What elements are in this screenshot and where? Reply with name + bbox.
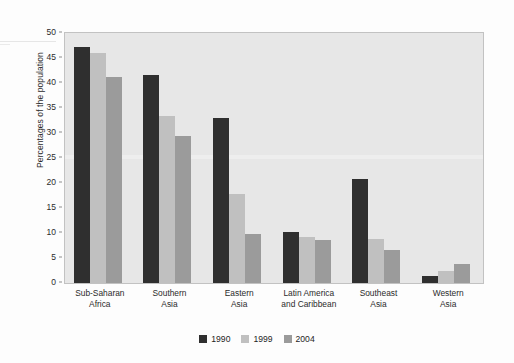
bar-1999-4 bbox=[299, 237, 315, 284]
y-tick-label: 30 bbox=[0, 127, 56, 137]
legend-swatch-icon bbox=[199, 335, 207, 343]
y-tick-label: 15 bbox=[0, 202, 56, 212]
bar-2004-5 bbox=[384, 250, 400, 284]
bar-group bbox=[344, 33, 414, 283]
bar-group bbox=[413, 33, 483, 283]
bar-1999-1 bbox=[90, 53, 106, 283]
bar-1990-1 bbox=[74, 47, 90, 283]
bar-group bbox=[204, 33, 274, 283]
y-tick-mark bbox=[59, 182, 62, 183]
y-tick-label: 20 bbox=[0, 177, 56, 187]
y-tick-mark bbox=[59, 257, 62, 258]
x-axis-label: Latin Americaand Caribbean bbox=[274, 288, 344, 310]
legend-item-1990: 1990 bbox=[199, 334, 230, 344]
x-axis-label-line: Southern bbox=[135, 288, 205, 299]
x-axis-label-line: Asia bbox=[204, 299, 274, 310]
y-tick-label: 40 bbox=[0, 77, 56, 87]
x-axis-label: SoutheastAsia bbox=[344, 288, 414, 310]
x-axis-label: SouthernAsia bbox=[135, 288, 205, 310]
x-axis-label-line: Latin America bbox=[274, 288, 344, 299]
bar-group bbox=[274, 33, 344, 283]
x-axis-label-line: Western bbox=[413, 288, 483, 299]
x-axis-label-line: Asia bbox=[135, 299, 205, 310]
legend-label: 1990 bbox=[211, 334, 230, 344]
bar-group bbox=[65, 33, 135, 283]
y-tick-mark bbox=[59, 132, 62, 133]
bar-1990-6 bbox=[422, 276, 438, 284]
legend-label: 1999 bbox=[253, 334, 272, 344]
bar-1990-5 bbox=[352, 179, 368, 283]
bar-1990-4 bbox=[283, 232, 299, 284]
y-tick-label: 5 bbox=[0, 252, 56, 262]
bar-2004-2 bbox=[175, 136, 191, 284]
legend-swatch-icon bbox=[241, 335, 249, 343]
y-tick-label: 10 bbox=[0, 227, 56, 237]
y-tick-label: 25 bbox=[0, 152, 56, 162]
x-axis-label-line: Asia bbox=[344, 299, 414, 310]
y-tick-mark bbox=[59, 232, 62, 233]
bar-chart-figure: Percentages of the population 0510152025… bbox=[0, 0, 514, 363]
x-axis-label: EasternAsia bbox=[204, 288, 274, 310]
bar-2004-3 bbox=[245, 234, 261, 284]
x-axis-labels: Sub-SaharanAfricaSouthernAsiaEasternAsia… bbox=[65, 288, 483, 322]
x-axis-label-line: Southeast bbox=[344, 288, 414, 299]
legend-item-2004: 2004 bbox=[284, 334, 315, 344]
bar-1999-2 bbox=[159, 116, 175, 284]
x-axis-label: WesternAsia bbox=[413, 288, 483, 310]
bar-1999-6 bbox=[438, 271, 454, 284]
bar-2004-6 bbox=[454, 264, 470, 284]
y-tick-mark bbox=[59, 282, 62, 283]
legend-label: 2004 bbox=[296, 334, 315, 344]
bar-group bbox=[135, 33, 205, 283]
y-tick-label: 50 bbox=[0, 27, 56, 37]
x-axis-label-line: Sub-Saharan bbox=[65, 288, 135, 299]
y-tick-mark bbox=[59, 32, 62, 33]
bar-2004-1 bbox=[106, 77, 122, 284]
bar-1999-5 bbox=[368, 239, 384, 283]
bar-groups bbox=[65, 33, 483, 283]
bar-1990-2 bbox=[143, 75, 159, 283]
bar-1990-3 bbox=[213, 118, 229, 283]
x-axis-label-line: and Caribbean bbox=[274, 299, 344, 310]
x-axis-label-line: Asia bbox=[413, 299, 483, 310]
y-tick-mark bbox=[59, 157, 62, 158]
y-tick-label: 45 bbox=[0, 52, 56, 62]
bar-1999-3 bbox=[229, 194, 245, 283]
y-tick-mark bbox=[59, 82, 62, 83]
x-axis-label: Sub-SaharanAfrica bbox=[65, 288, 135, 310]
legend-item-1999: 1999 bbox=[241, 334, 272, 344]
x-axis-label-line: Africa bbox=[65, 299, 135, 310]
y-tick-mark bbox=[59, 207, 62, 208]
chart-legend: 199019992004 bbox=[0, 334, 514, 344]
legend-swatch-icon bbox=[284, 335, 292, 343]
y-tick-mark bbox=[59, 107, 62, 108]
y-tick-label: 0 bbox=[0, 277, 56, 287]
y-tick-label: 35 bbox=[0, 102, 56, 112]
y-axis-ticks: 05101520253035404550 bbox=[0, 32, 62, 284]
bar-2004-4 bbox=[315, 240, 331, 283]
y-tick-mark bbox=[59, 57, 62, 58]
x-axis-label-line: Eastern bbox=[204, 288, 274, 299]
